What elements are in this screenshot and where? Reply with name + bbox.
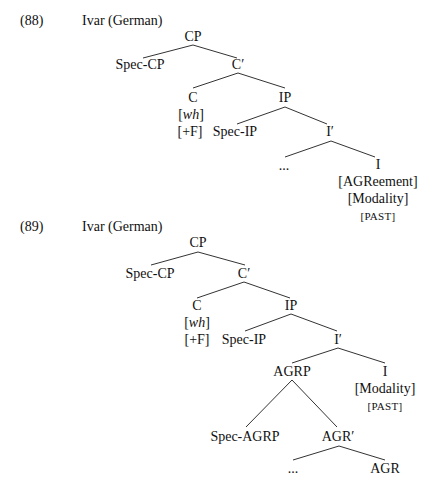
tree-branch [285, 141, 331, 157]
tree-branch [193, 73, 238, 88]
tree-branch [151, 252, 198, 265]
tree-node-cp: CP [189, 235, 206, 251]
tree-node-ip: IP [285, 298, 297, 314]
tree-branch [193, 45, 237, 58]
tree-node-agrp: AGRP [273, 364, 310, 380]
tree-node-agr-bar: AGR′ [322, 429, 355, 445]
tree-node-c-wh: [wh] [184, 315, 210, 331]
tree-branch [198, 252, 245, 265]
example-number: (88) [20, 13, 43, 29]
tree-node-c-f: [+F] [184, 332, 209, 348]
tree-node-i-bar: I′ [326, 124, 334, 140]
tree-node-i-bar: I′ [334, 332, 342, 348]
tree-node-c-bar: C′ [238, 266, 250, 282]
tree-branch [238, 73, 285, 88]
tree-node-i-past: [PAST] [367, 398, 402, 414]
tree-branch [285, 107, 327, 124]
tree-node-spec-ip: Spec-IP [222, 332, 266, 348]
tree-branch [246, 380, 292, 427]
tree-node-i-mod: [Modality] [355, 381, 416, 397]
tree-branch [237, 107, 285, 124]
example-number: (89) [20, 219, 43, 235]
tree-branch [197, 282, 244, 298]
tree-branch [331, 141, 375, 157]
tree-branch [291, 314, 337, 331]
tree-branch [292, 380, 337, 427]
tree-node-i: I [383, 364, 388, 380]
tree-branch [338, 348, 385, 363]
example-title: Ivar (German) [82, 13, 162, 29]
tree-branch [244, 282, 290, 298]
tree-node-ellipsis: ... [279, 158, 290, 174]
tree-node-c-bar: C′ [232, 57, 244, 73]
tree-node-i-agr: [AGReement] [338, 174, 417, 190]
tree-node-spec-ip: Spec-IP [213, 124, 257, 140]
tree-branch [245, 314, 291, 331]
tree-node-c-wh: [wh] [178, 107, 204, 123]
tree-node-cp: CP [184, 29, 201, 45]
tree-node-c-f: [+F] [177, 124, 202, 140]
tree-branch [292, 348, 338, 363]
tree-node-c: C [188, 90, 197, 106]
tree-node-agr: AGR [370, 461, 400, 477]
tree-branch [293, 446, 339, 460]
tree-node-spec-cp: Spec-CP [126, 266, 175, 282]
tree-node-ellipsis: ... [288, 461, 299, 477]
tree-node-i-mod: [Modality] [348, 191, 409, 207]
example-title: Ivar (German) [82, 219, 162, 235]
tree-node-spec-agrp: Spec-AGRP [210, 429, 279, 445]
tree-node-i: I [376, 157, 381, 173]
syntax-tree-canvas [0, 0, 426, 487]
tree-node-c: C [192, 298, 201, 314]
tree-node-spec-cp: Spec-CP [116, 57, 165, 73]
tree-node-i-past: [PAST] [360, 208, 395, 224]
tree-branch [339, 446, 385, 460]
tree-node-ip: IP [279, 90, 291, 106]
